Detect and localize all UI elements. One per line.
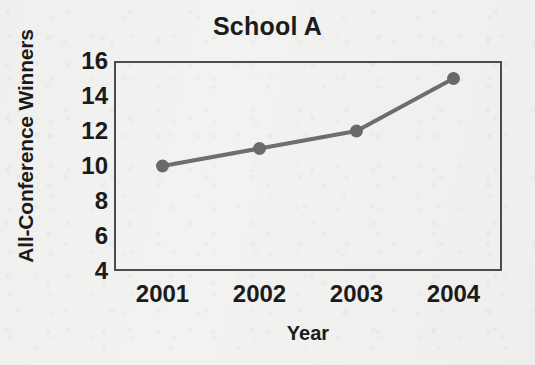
data-point-marker (253, 142, 266, 155)
chart-title: School A (0, 12, 535, 41)
x-tick-label: 2004 (399, 282, 509, 306)
plot-area (114, 61, 502, 271)
y-tick-label: 6 (50, 224, 108, 248)
data-point-marker (447, 72, 460, 85)
x-axis-title: Year (114, 322, 502, 345)
data-point-marker (156, 160, 169, 173)
series-line (163, 79, 454, 167)
y-axis-tick-labels: 46810121416 (46, 61, 108, 271)
x-tick-label: 2002 (205, 282, 315, 306)
x-tick-label: 2001 (108, 282, 218, 306)
line-chart-figure: School A All-Conference Winners 46810121… (0, 0, 535, 365)
y-axis-title: All-Conference Winners (9, 41, 43, 251)
y-tick-label: 10 (50, 154, 108, 178)
y-tick-label: 14 (50, 84, 108, 108)
y-tick-label: 16 (50, 49, 108, 73)
y-tick-label: 8 (50, 189, 108, 213)
data-point-marker (350, 125, 363, 138)
data-series-svg (114, 61, 502, 271)
x-tick-label: 2003 (302, 282, 412, 306)
y-tick-label: 4 (50, 259, 108, 283)
y-tick-label: 12 (50, 119, 108, 143)
x-axis-tick-labels: 2001200220032004 (114, 282, 502, 314)
